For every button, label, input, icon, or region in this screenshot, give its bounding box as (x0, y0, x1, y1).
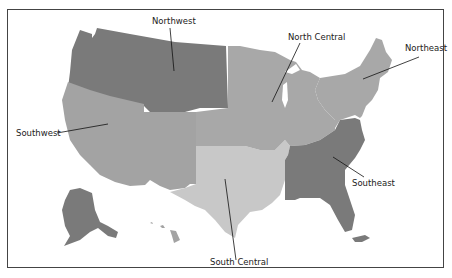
label-southeast: Southeast (352, 178, 395, 188)
label-northwest: Northwest (152, 16, 196, 26)
label-north-central: North Central (288, 32, 345, 42)
label-southwest: Southwest (16, 128, 61, 138)
region-hawaii (150, 222, 180, 243)
label-south-central: South Central (210, 257, 268, 267)
region-puerto-rico (352, 235, 370, 242)
region-alaska (62, 188, 118, 246)
us-regions-map (0, 0, 452, 278)
label-northeast: Northeast (405, 43, 447, 53)
